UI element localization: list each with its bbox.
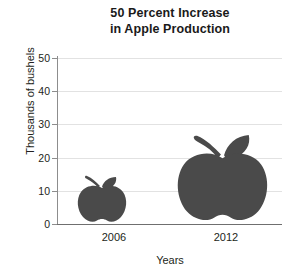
y-tick-label-0: 0 (4, 219, 50, 229)
x-tick-label-2012: 2012 (170, 231, 282, 243)
y-tick-label-40: 40 (4, 86, 50, 96)
y-tick-label-10: 10 (4, 186, 50, 196)
plot-area (58, 58, 282, 224)
y-tick-label-30: 30 (4, 119, 50, 129)
apple-production-chart: 50 Percent Increase in Apple Production … (0, 0, 292, 278)
chart-title-line-1: 50 Percent Increase (58, 6, 282, 22)
gridline-50 (58, 58, 282, 59)
y-tick-label-50: 50 (4, 53, 50, 63)
chart-title: 50 Percent Increase in Apple Production (58, 6, 282, 37)
apple-pictograph-2006 (68, 171, 136, 224)
gridline-40 (58, 91, 282, 92)
chart-title-line-2: in Apple Production (58, 22, 282, 38)
y-axis-tick-labels: 50 40 30 20 10 0 (0, 0, 50, 278)
y-axis-line (57, 56, 58, 225)
x-tick-label-2006: 2006 (58, 231, 170, 243)
y-tick-label-20: 20 (4, 153, 50, 163)
x-axis-title: Years (58, 254, 282, 266)
apple-pictograph-2012 (170, 128, 275, 224)
gridline-30 (58, 124, 282, 125)
x-axis-line (57, 224, 282, 225)
